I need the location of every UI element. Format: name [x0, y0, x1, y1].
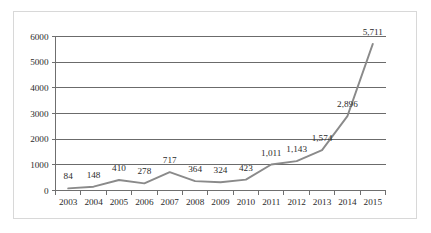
data-point-label: 410	[112, 163, 126, 173]
data-point-label: 364	[188, 164, 202, 174]
x-tick-label: 2007	[161, 197, 180, 207]
x-axis-tick-labels: 2003200420052006200720082009201020112012…	[59, 197, 382, 207]
y-tick-label: 5000	[30, 57, 49, 67]
x-tick-label: 2009	[211, 197, 230, 207]
x-tick-label: 2010	[237, 197, 256, 207]
data-point-label: 2,896	[337, 99, 358, 109]
x-tick-label: 2008	[186, 197, 205, 207]
x-tick-label: 2013	[313, 197, 332, 207]
y-axis-tick-labels: 0100020003000400050006000	[30, 32, 49, 196]
data-point-label: 1,574	[312, 133, 333, 143]
x-tick-marks-group	[56, 191, 386, 195]
line-chart: 0100020003000400050006000 20032004200520…	[0, 0, 431, 233]
x-tick-label: 2003	[59, 197, 78, 207]
y-tick-label: 2000	[30, 134, 49, 144]
data-point-label: 84	[64, 171, 74, 181]
data-point-label: 148	[87, 170, 101, 180]
chart-container: 0100020003000400050006000 20032004200520…	[0, 0, 431, 233]
x-tick-label: 2005	[110, 197, 129, 207]
data-point-label: 1,011	[261, 148, 282, 158]
x-tick-label: 2015	[364, 197, 383, 207]
data-point-label: 278	[137, 166, 151, 176]
y-tick-label: 6000	[30, 32, 49, 42]
data-point-labels: 841484102787173643244231,0111,1431,5742,…	[64, 27, 384, 181]
data-point-label: 324	[214, 165, 228, 175]
data-point-label: 5,711	[363, 27, 384, 37]
x-tick-label: 2011	[262, 197, 280, 207]
y-tick-marks-group	[52, 37, 56, 191]
y-tick-label: 4000	[30, 83, 49, 93]
x-tick-label: 2012	[287, 197, 306, 207]
gridlines-group	[56, 37, 386, 165]
x-tick-label: 2006	[135, 197, 154, 207]
x-tick-label: 2004	[84, 197, 103, 207]
data-point-label: 1,143	[286, 144, 307, 154]
y-tick-label: 3000	[30, 109, 49, 119]
data-point-label: 717	[163, 155, 177, 165]
data-point-label: 423	[239, 163, 253, 173]
y-tick-label: 1000	[30, 160, 49, 170]
y-tick-label: 0	[44, 186, 49, 196]
x-tick-label: 2014	[338, 197, 357, 207]
